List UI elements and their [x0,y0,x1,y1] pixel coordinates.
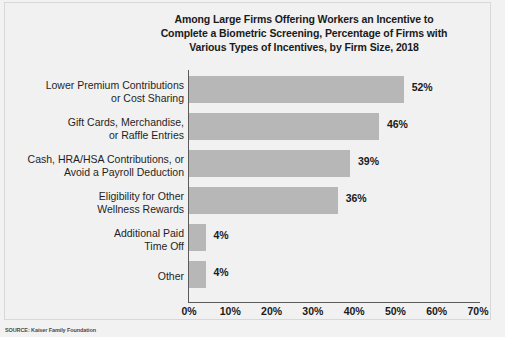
category-label-line: Cash, HRA/HSA Contributions, or [6,153,184,166]
category-label: Cash, HRA/HSA Contributions, orAvoid a P… [6,153,184,179]
bar-row: 46% [189,108,478,145]
x-axis-tick-label: 20% [261,305,282,317]
bar [189,113,379,140]
category-label-line: Eligibility for Other [6,190,184,203]
category-label-line: Other [6,270,184,283]
x-axis-tick-labels: 0%10%20%30%40%50%60%70% [189,305,489,321]
category-label-line: Lower Premium Contributions [6,79,184,92]
bar [189,224,206,251]
category-label-line: Gift Cards, Merchandise, [6,116,184,129]
category-label-line: Additional Paid [6,227,184,240]
bar-row: 52% [189,71,478,108]
category-label-line: or Cost Sharing [6,92,184,105]
x-axis-line [188,302,480,303]
bar [189,261,206,288]
x-axis-tick-label: 70% [467,305,488,317]
bar-value-label: 52% [412,81,433,93]
category-label: Additional PaidTime Off [6,227,184,253]
x-axis-tick-label: 0% [181,305,196,317]
category-label: Eligibility for OtherWellness Rewards [6,190,184,216]
category-label-line: Time Off [6,240,184,253]
category-label: Other [6,270,184,283]
bar-value-label: 46% [387,118,408,130]
x-axis-tick-label: 60% [426,305,447,317]
bar [189,76,404,103]
x-axis-tick-label: 30% [302,305,323,317]
bar-value-label: 4% [214,266,229,278]
bar-row: 4% [189,256,478,293]
category-label: Gift Cards, Merchandise,or Raffle Entrie… [6,116,184,142]
bar-row: 39% [189,145,478,182]
category-label-line: or Raffle Entries [6,129,184,142]
x-axis-tick-label: 10% [220,305,241,317]
bar [189,150,350,177]
bar-row: 36% [189,182,478,219]
chart-title-line-2: Complete a Biometric Screening, Percenta… [118,26,490,40]
plot-area: 52%46%39%36%4%4% [189,71,478,302]
x-axis-tick-label: 40% [344,305,365,317]
x-axis-tick-label: 50% [385,305,406,317]
category-label-line: Avoid a Payroll Deduction [6,166,184,179]
bar-value-label: 36% [346,192,367,204]
chart-title-line-3: Various Types of Incentives, by Firm Siz… [118,40,490,54]
category-label-line: Wellness Rewards [6,203,184,216]
bar-value-label: 39% [358,155,379,167]
source-note: SOURCE: Kaiser Family Foundation [5,327,96,333]
category-label: Lower Premium Contributionsor Cost Shari… [6,79,184,105]
bar-row: 4% [189,219,478,256]
chart-title: Among Large Firms Offering Workers an In… [118,12,490,54]
bar-value-label: 4% [214,229,229,241]
chart-title-line-1: Among Large Firms Offering Workers an In… [118,12,490,26]
bar-chart-figure: Among Large Firms Offering Workers an In… [0,0,505,337]
y-axis-category-labels: Lower Premium Contributionsor Cost Shari… [4,71,184,302]
bar [189,187,338,214]
